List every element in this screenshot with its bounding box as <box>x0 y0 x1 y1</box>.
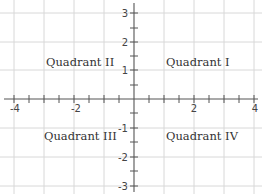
axes <box>4 3 258 192</box>
quadrant-ii-label: Quadrant II <box>46 55 114 69</box>
quadrant-i-label: Quadrant I <box>166 55 230 69</box>
y-label-neg1: -1 <box>118 123 128 134</box>
y-label-3: 3 <box>122 8 128 19</box>
y-tick-labels: 3 2 1 -1 -2 -3 <box>118 8 128 192</box>
y-label-2: 2 <box>122 37 128 48</box>
x-label-neg2: -2 <box>71 103 81 114</box>
x-label-4: 4 <box>252 103 258 114</box>
coordinate-plane: -4 -2 2 4 3 2 1 -1 -2 -3 Quadrant II Qua… <box>0 0 262 194</box>
x-label-2: 2 <box>191 103 197 114</box>
grid <box>0 0 262 194</box>
y-label-1: 1 <box>122 65 128 76</box>
quadrant-iii-label: Quadrant III <box>44 129 117 143</box>
y-label-neg3: -3 <box>118 181 128 192</box>
quadrant-iv-label: Quadrant IV <box>166 129 239 143</box>
y-label-neg2: -2 <box>118 152 128 163</box>
x-label-neg4: -4 <box>10 103 20 114</box>
